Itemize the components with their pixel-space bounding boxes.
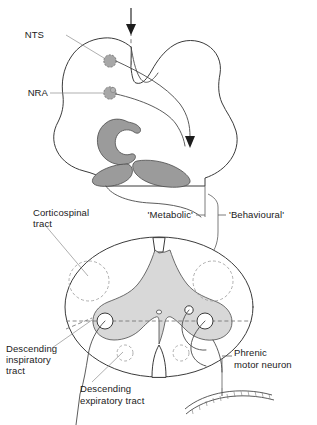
label-descending-inspiratory-line3: tract xyxy=(6,365,25,376)
label-corticospinal-tract-line2: tract xyxy=(33,218,52,229)
central-canal xyxy=(156,310,161,314)
label-descending-expiratory-line2: expiratory tract xyxy=(80,395,145,406)
descending-input-arrow xyxy=(126,8,136,35)
label-descending-inspiratory-line1: Descending xyxy=(6,343,57,354)
label-descending-inspiratory-line2: inspiratory xyxy=(6,354,51,365)
nucleus-nra xyxy=(104,87,116,99)
figure-canvas: NTS NRA 'Metabolic' 'Behavioural' Cortic… xyxy=(0,0,317,425)
label-descending-expiratory-line1: Descending xyxy=(80,383,131,394)
label-metabolic: 'Metabolic' xyxy=(148,209,193,220)
diaphragm xyxy=(185,388,274,414)
label-behavioural: 'Behavioural' xyxy=(229,209,284,220)
label-phrenic-line1: Phrenic xyxy=(234,347,267,358)
label-phrenic-line2: motor neuron xyxy=(234,359,292,370)
nucleus-nts xyxy=(104,55,116,67)
leader-corticospinal xyxy=(45,225,88,276)
label-corticospinal-tract-line1: Corticospinal xyxy=(33,207,89,218)
label-nts: NTS xyxy=(25,29,44,40)
label-nra: NRA xyxy=(28,87,49,98)
neuroanatomy-diagram: NTS NRA 'Metabolic' 'Behavioural' Cortic… xyxy=(0,0,317,425)
